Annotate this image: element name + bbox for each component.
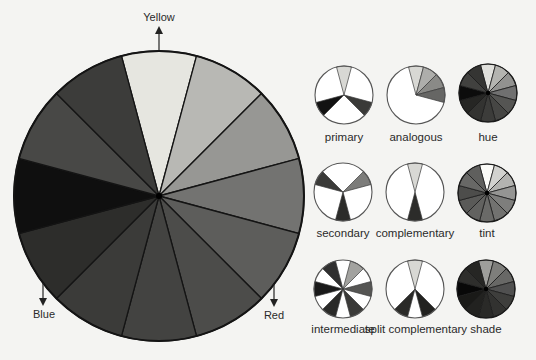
wheel-split-complementary [386, 260, 444, 318]
wheel-hue [459, 64, 517, 122]
label-tint: tint [479, 227, 495, 239]
yellow-indicator: Yellow [143, 11, 174, 50]
wheel-tint [458, 164, 516, 222]
main-wheel-center [156, 193, 162, 199]
main-color-wheel [14, 51, 304, 341]
arrow-up-icon [155, 26, 163, 34]
wheel-center [485, 191, 489, 195]
arrow-down-icon [270, 299, 278, 307]
wheel-secondary [314, 163, 372, 221]
label-hue: hue [478, 131, 497, 143]
color-scheme-wheels [314, 64, 517, 318]
wheel-intermediate [314, 260, 372, 318]
wheel-primary [315, 66, 373, 124]
label-primary: primary [325, 131, 364, 143]
red-label: Red [264, 309, 284, 321]
label-secondary: secondary [316, 227, 369, 239]
wheel-center [486, 91, 490, 95]
color-wheel-diagram: Yellow Blue Red primary analogous hue se… [0, 0, 536, 360]
yellow-label: Yellow [143, 11, 174, 23]
wheel-analogous [387, 66, 445, 124]
wheel-center [484, 287, 488, 291]
label-split-complementary: split complementary [365, 323, 468, 335]
wheel-shade [457, 260, 515, 318]
label-shade: shade [470, 323, 501, 335]
label-complementary: complementary [376, 227, 455, 239]
arrow-down-icon [39, 298, 47, 306]
blue-label: Blue [33, 308, 55, 320]
wheel-complementary [386, 163, 444, 221]
label-analogous: analogous [389, 131, 442, 143]
